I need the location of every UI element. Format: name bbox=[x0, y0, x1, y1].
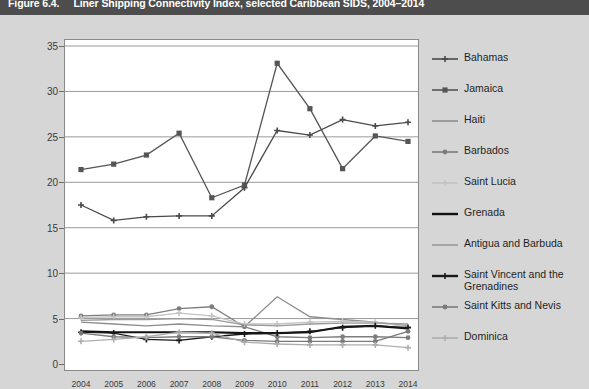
data-point bbox=[405, 345, 411, 351]
data-point bbox=[78, 338, 84, 344]
data-point bbox=[406, 335, 411, 340]
legend-item-antigua-and-barbuda[interactable]: Antigua and Barbuda bbox=[430, 237, 586, 268]
plot-svg bbox=[65, 40, 418, 370]
y-axis-tick-mark bbox=[59, 364, 64, 365]
data-point bbox=[340, 117, 346, 123]
legend-marker-icon bbox=[430, 238, 460, 252]
legend-item-haiti[interactable]: Haiti bbox=[430, 113, 586, 144]
y-axis-tick-label: 30 bbox=[18, 86, 58, 97]
data-point bbox=[111, 162, 116, 167]
figure-number: Figure 6.4. bbox=[8, 0, 59, 9]
data-point bbox=[78, 202, 84, 208]
y-axis-tick-mark bbox=[59, 182, 64, 183]
data-point bbox=[442, 273, 448, 279]
legend-item-saint-vincent-and-the-grenadines[interactable]: Saint Vincent and the Grenadines bbox=[430, 268, 586, 299]
data-point bbox=[340, 334, 345, 339]
y-axis-tick-mark bbox=[59, 46, 64, 47]
data-point bbox=[275, 61, 280, 66]
legend-item-label: Haiti bbox=[460, 113, 485, 125]
chart-area: LSCI 05101520253035 20042005200620072008… bbox=[0, 15, 589, 385]
y-axis-tick-mark bbox=[59, 273, 64, 274]
data-point bbox=[177, 131, 182, 136]
legend-marker-icon bbox=[430, 145, 460, 159]
data-point bbox=[143, 214, 149, 220]
figure-title-bar: Figure 6.4.Liner Shipping Connectivity I… bbox=[0, 0, 589, 15]
data-point bbox=[111, 217, 117, 223]
data-point bbox=[176, 310, 182, 316]
data-point bbox=[242, 182, 247, 187]
legend-marker-icon bbox=[430, 269, 460, 283]
y-axis-tick-label: 0 bbox=[18, 359, 58, 370]
legend-item-label: Jamaica bbox=[460, 82, 503, 94]
legend-item-label: Bahamas bbox=[460, 51, 508, 63]
legend-item-bahamas[interactable]: Bahamas bbox=[430, 51, 586, 82]
data-point bbox=[78, 167, 83, 172]
legend-item-label: Antigua and Barbuda bbox=[460, 237, 563, 249]
data-point bbox=[242, 331, 248, 337]
series-line bbox=[81, 120, 408, 221]
data-point bbox=[442, 180, 448, 186]
legend-item-barbados[interactable]: Barbados bbox=[430, 144, 586, 175]
data-point bbox=[274, 127, 280, 133]
legend-marker-icon bbox=[430, 331, 460, 345]
data-point bbox=[405, 119, 411, 125]
legend-item-dominica[interactable]: Dominica bbox=[430, 330, 586, 361]
data-point bbox=[176, 329, 182, 335]
legend-item-label: Grenada bbox=[460, 206, 505, 218]
series-bahamas bbox=[78, 117, 411, 224]
legend-marker-icon bbox=[430, 300, 460, 314]
legend-marker-icon bbox=[430, 52, 460, 66]
legend-item-label: Saint Vincent and the Grenadines bbox=[460, 268, 586, 292]
data-point bbox=[307, 328, 313, 334]
legend-item-label: Barbados bbox=[460, 144, 509, 156]
data-point bbox=[443, 150, 448, 155]
legend: BahamasJamaicaHaitiBarbadosSaint LuciaGr… bbox=[430, 51, 586, 361]
data-point bbox=[209, 313, 215, 319]
y-axis-tick-label: 15 bbox=[18, 222, 58, 233]
data-point bbox=[79, 331, 84, 336]
y-axis-tick-mark bbox=[59, 91, 64, 92]
series-jamaica bbox=[78, 61, 410, 201]
x-axis-tick-label: 2014 bbox=[388, 379, 428, 389]
y-axis-tick-label: 35 bbox=[18, 41, 58, 52]
legend-item-saint-lucia[interactable]: Saint Lucia bbox=[430, 175, 586, 206]
data-point bbox=[340, 325, 346, 331]
data-point bbox=[340, 166, 345, 171]
data-point bbox=[405, 139, 410, 144]
y-axis-tick-label: 10 bbox=[18, 268, 58, 279]
legend-marker-icon bbox=[430, 176, 460, 190]
legend-item-grenada[interactable]: Grenada bbox=[430, 206, 586, 237]
legend-marker-icon bbox=[430, 207, 460, 221]
y-axis-tick-mark bbox=[59, 319, 64, 320]
y-axis-tick-label: 5 bbox=[18, 313, 58, 324]
legend-item-label: Dominica bbox=[460, 330, 508, 342]
data-point bbox=[372, 123, 378, 129]
legend-item-saint-kitts-and-nevis[interactable]: Saint Kitts and Nevis bbox=[430, 299, 586, 330]
data-point bbox=[442, 335, 448, 341]
figure-title: Figure 6.4.Liner Shipping Connectivity I… bbox=[8, 0, 424, 9]
data-point bbox=[372, 342, 378, 348]
legend-item-label: Saint Lucia bbox=[460, 175, 516, 187]
data-point bbox=[406, 329, 411, 334]
data-point bbox=[340, 342, 346, 348]
data-point bbox=[144, 152, 149, 157]
data-point bbox=[373, 334, 378, 339]
legend-marker-icon bbox=[430, 83, 460, 97]
data-point bbox=[443, 305, 448, 310]
data-point bbox=[373, 133, 378, 138]
data-point bbox=[209, 195, 214, 200]
legend-item-label: Saint Kitts and Nevis bbox=[460, 299, 561, 311]
data-point bbox=[442, 87, 447, 92]
legend-marker-icon bbox=[430, 114, 460, 128]
data-point bbox=[307, 106, 312, 111]
data-point bbox=[176, 213, 182, 219]
data-point bbox=[442, 56, 448, 62]
legend-item-jamaica[interactable]: Jamaica bbox=[430, 82, 586, 113]
data-point bbox=[307, 342, 313, 348]
data-point bbox=[209, 330, 215, 336]
data-point bbox=[209, 304, 214, 309]
y-axis-tick-label: 25 bbox=[18, 131, 58, 142]
figure-title-text: Liner Shipping Connectivity Index, selec… bbox=[73, 0, 424, 9]
y-axis-tick-mark bbox=[59, 228, 64, 229]
y-axis-tick-label: 20 bbox=[18, 177, 58, 188]
